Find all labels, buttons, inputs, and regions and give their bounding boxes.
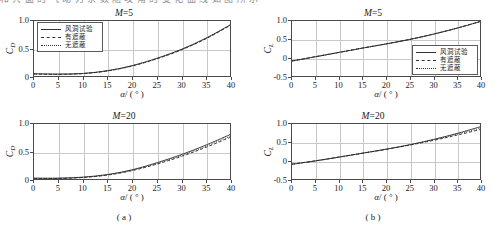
x-axis-title: α/ ( ° )	[291, 89, 481, 99]
legend-label: 风洞试验	[65, 25, 93, 33]
x-tick-label: 5	[56, 81, 60, 90]
legend: 风洞试验有遮蔽无遮蔽	[37, 22, 103, 52]
curve-layer	[34, 124, 231, 180]
legend-label: 风洞试验	[440, 48, 468, 56]
x-tick-label: 35	[202, 184, 211, 193]
y-tick-label: -0.5	[259, 73, 287, 82]
clipped-text-above: 和 共 面 的 气 动 力 系 数 随 攻 角 的 变 化 曲 线 如 图 所 …	[0, 0, 497, 7]
x-tick-label: 20	[382, 184, 391, 193]
x-tick-label: 0	[31, 81, 35, 90]
panel-title: M=5	[0, 8, 248, 18]
legend-label: 无遮蔽	[440, 64, 461, 72]
x-tick-label: 10	[78, 184, 87, 193]
y-tick-label: 1.0	[259, 16, 287, 25]
x-tick-label: 0	[289, 81, 293, 90]
subfigure-caption-b: ( b )	[249, 212, 497, 222]
legend-line-icon	[40, 25, 62, 33]
y-tick-label: 0.5	[259, 138, 287, 147]
x-tick-label: 30	[429, 184, 438, 193]
x-tick-label: 35	[453, 81, 462, 90]
y-tick	[288, 180, 291, 181]
x-tick-label: 5	[313, 81, 317, 90]
panel-top-right: M=5 CL α/ ( ° ) 0510152025303540-0.500.5…	[249, 7, 497, 108]
series-line	[34, 134, 231, 179]
legend-label: 有遮蔽	[65, 33, 86, 41]
panel-top-left: M=5 CD α/ ( ° ) 051015202530354000.51.0风…	[0, 7, 248, 108]
y-tick	[288, 58, 291, 59]
legend-item: 有遮蔽	[415, 56, 474, 64]
x-tick-label: 25	[153, 81, 162, 90]
y-tick-label: 0	[1, 176, 29, 185]
y-tick	[288, 123, 291, 124]
x-tick-label: 30	[177, 81, 186, 90]
x-tick-label: 25	[406, 184, 415, 193]
series-line	[34, 137, 231, 179]
y-tick	[30, 123, 33, 124]
x-axis-title: α/ ( ° )	[33, 192, 231, 202]
legend: 风洞试验有遮蔽无遮蔽	[412, 45, 478, 75]
panel-bottom-right: M=20 CL α/ ( ° ) ( b ) 0510152025303540-…	[249, 110, 497, 231]
legend-line-icon	[40, 33, 62, 41]
legend-line-icon	[415, 64, 437, 72]
legend-item: 风洞试验	[415, 48, 474, 56]
x-tick-label: 40	[477, 81, 486, 90]
panel-bottom-left: M=20 CD α/ ( ° ) ( a ) 05101520253035400…	[0, 110, 248, 231]
x-tick-label: 0	[31, 184, 35, 193]
y-tick	[30, 20, 33, 21]
legend-line-icon	[40, 41, 62, 49]
y-tick	[288, 77, 291, 78]
legend-item: 无遮蔽	[40, 41, 99, 49]
x-tick-label: 10	[78, 81, 87, 90]
y-tick-label: 1.0	[1, 119, 29, 128]
x-tick-label: 20	[128, 184, 137, 193]
x-tick-label: 20	[128, 81, 137, 90]
x-tick-label: 10	[334, 81, 343, 90]
x-tick-label: 30	[429, 81, 438, 90]
y-tick-label: 1.0	[259, 119, 287, 128]
x-tick-label: 35	[202, 81, 211, 90]
y-tick-label: 0	[1, 73, 29, 82]
y-tick-label: 0	[259, 157, 287, 166]
y-tick	[288, 142, 291, 143]
x-tick-label: 35	[453, 184, 462, 193]
y-tick-label: 0.5	[1, 44, 29, 53]
x-axis-title: α/ ( ° )	[291, 192, 481, 202]
series-line	[292, 128, 481, 164]
legend-line-icon	[415, 48, 437, 56]
x-tick-label: 40	[227, 184, 236, 193]
x-tick-label: 20	[382, 81, 391, 90]
y-tick-label: 0	[259, 54, 287, 63]
curve-layer	[292, 124, 481, 180]
x-tick-label: 40	[227, 81, 236, 90]
x-tick-label: 15	[358, 184, 367, 193]
figure-root: 和 共 面 的 气 动 力 系 数 随 攻 角 的 变 化 曲 线 如 图 所 …	[0, 0, 497, 231]
y-tick-label: -0.5	[259, 176, 287, 185]
series-line	[34, 135, 231, 178]
x-tick-label: 0	[289, 184, 293, 193]
plot-area	[33, 123, 231, 180]
subfigure-caption-a: ( a )	[0, 212, 248, 222]
x-tick-label: 5	[56, 184, 60, 193]
plot-area	[291, 123, 481, 180]
legend-item: 无遮蔽	[415, 64, 474, 72]
y-tick	[30, 180, 33, 181]
x-tick-label: 5	[313, 184, 317, 193]
x-axis-title: α/ ( ° )	[33, 89, 231, 99]
legend-item: 风洞试验	[40, 25, 99, 33]
y-tick	[288, 39, 291, 40]
legend-label: 有遮蔽	[440, 56, 461, 64]
series-line	[292, 126, 481, 164]
y-tick	[30, 152, 33, 153]
x-tick-label: 25	[153, 184, 162, 193]
legend-item: 有遮蔽	[40, 33, 99, 41]
legend-line-icon	[415, 56, 437, 64]
y-tick	[30, 49, 33, 50]
y-tick-label: 0.5	[259, 35, 287, 44]
y-tick-label: 1.0	[1, 16, 29, 25]
x-tick-label: 15	[358, 81, 367, 90]
x-tick-label: 15	[103, 184, 112, 193]
y-tick	[288, 20, 291, 21]
x-tick-label: 15	[103, 81, 112, 90]
x-tick-label: 25	[406, 81, 415, 90]
panel-title: M=20	[0, 111, 248, 121]
